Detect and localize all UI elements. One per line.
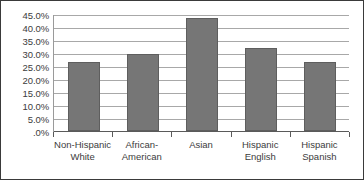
- category-tick: [349, 132, 350, 137]
- y-axis: 45.0%40.0%35.0%30.0%25.0%20.0%15.0%10.0%…: [1, 1, 53, 180]
- y-axis-tick-label: 15.0%: [23, 88, 49, 99]
- bars-group: [54, 15, 349, 131]
- y-axis-tick-label: 30.0%: [23, 49, 49, 60]
- category-tick: [171, 132, 172, 137]
- y-axis-tick-label: 10.0%: [23, 101, 49, 112]
- plot-area: [53, 15, 349, 132]
- category-tick: [290, 132, 291, 137]
- y-axis-tick-label: 25.0%: [23, 62, 49, 73]
- bar-slot: [54, 15, 113, 131]
- bar[interactable]: [186, 18, 218, 131]
- bar-slot: [172, 15, 231, 131]
- category-tick: [53, 132, 54, 137]
- y-axis-tick-label: 40.0%: [23, 23, 49, 34]
- x-axis-label-line: Hispanic: [232, 139, 289, 151]
- bar[interactable]: [245, 48, 277, 131]
- x-axis-label-line: African-: [113, 139, 170, 151]
- x-axis-label-line: White: [54, 151, 111, 163]
- x-axis-label-line: Spanish: [291, 151, 348, 163]
- category-tick: [112, 132, 113, 137]
- bar[interactable]: [68, 62, 100, 131]
- y-axis-tick-label: 35.0%: [23, 36, 49, 47]
- bar-slot: [290, 15, 349, 131]
- x-axis-label-line: Non-Hispanic: [54, 139, 111, 151]
- x-axis-category-label: HispanicSpanish: [290, 139, 349, 162]
- y-axis-tick-label: .0%: [33, 127, 49, 138]
- x-axis-label-line: American: [113, 151, 170, 163]
- x-axis-category-label: Asian: [171, 139, 230, 162]
- bar[interactable]: [127, 54, 159, 131]
- x-axis-label-line: Hispanic: [291, 139, 348, 151]
- x-axis-category-label: HispanicEnglish: [231, 139, 290, 162]
- bar[interactable]: [304, 62, 336, 131]
- category-tick-marks: [53, 132, 349, 137]
- x-axis-category-label: Non-HispanicWhite: [53, 139, 112, 162]
- x-axis-label-line: English: [232, 151, 289, 163]
- x-axis-category-label: African-American: [112, 139, 171, 162]
- x-axis: Non-HispanicWhiteAfrican-AmericanAsianHi…: [53, 139, 349, 162]
- category-tick: [231, 132, 232, 137]
- bar-slot: [113, 15, 172, 131]
- x-axis-label-line: Asian: [172, 139, 229, 151]
- y-axis-tick-label: 20.0%: [23, 75, 49, 86]
- bar-slot: [231, 15, 290, 131]
- bar-chart: 45.0%40.0%35.0%30.0%25.0%20.0%15.0%10.0%…: [0, 0, 364, 180]
- y-axis-tick-label: 45.0%: [23, 10, 49, 21]
- y-axis-tick-label: 5.0%: [28, 114, 49, 125]
